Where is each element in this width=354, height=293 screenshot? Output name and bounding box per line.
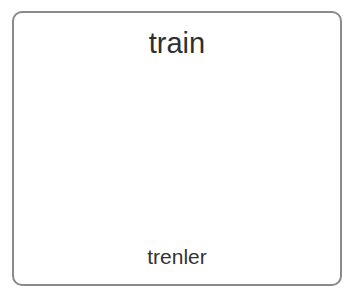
picture-card: train trenler: [12, 11, 342, 286]
card-title: train: [14, 27, 340, 59]
card-caption: trenler: [14, 244, 340, 270]
